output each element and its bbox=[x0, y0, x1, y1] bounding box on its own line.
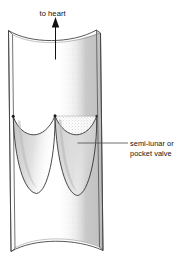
flow-label: to heart bbox=[40, 9, 67, 18]
vein-valve-diagram: to heart semi-lunar or pocket valve bbox=[0, 0, 186, 272]
valve-label-line1: semi-lunar or bbox=[130, 139, 174, 148]
valve-label-line2: pocket valve bbox=[130, 149, 172, 158]
diagram-canvas: to heart semi-lunar or pocket valve bbox=[0, 0, 186, 272]
